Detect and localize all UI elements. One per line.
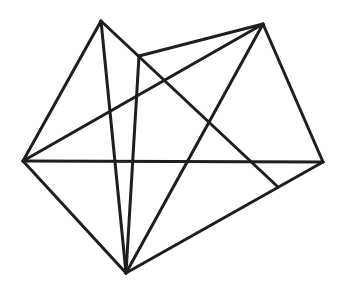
segment-L-B [23, 161, 126, 273]
segment-T-R [263, 24, 323, 162]
segment-L-R [23, 161, 323, 162]
diagram-svg [0, 0, 343, 291]
segment-P-T [139, 24, 263, 56]
segment-P-B [126, 56, 139, 273]
segment-A-B [101, 21, 126, 273]
geometric-diagram [0, 0, 343, 291]
